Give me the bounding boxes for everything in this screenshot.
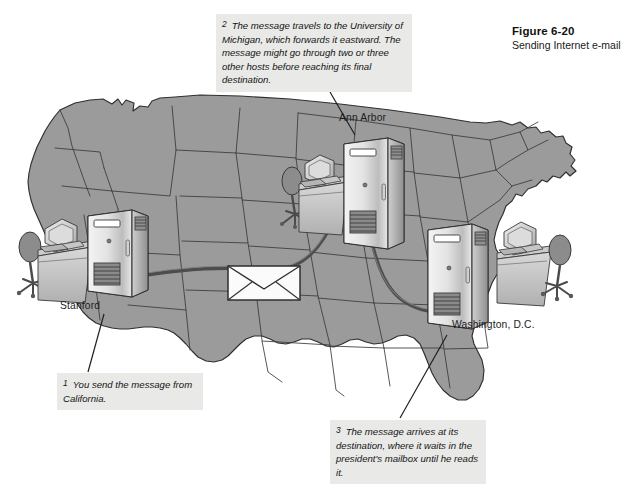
city-label-stanford: Stanford (60, 300, 100, 311)
figure-container: Figure 6-20 Sending Internet e-mail 2The… (0, 0, 631, 503)
figure-number: Figure 6-20 (512, 24, 631, 38)
figure-caption: Figure 6-20 Sending Internet e-mail (512, 24, 631, 52)
server-cabinet-icon (428, 224, 488, 329)
envelope-icon (228, 266, 300, 300)
callout-step-3-number: 3 (336, 425, 341, 435)
city-label-ann-arbor: Ann Arbor (339, 112, 386, 123)
callout-step-1-number: 1 (63, 378, 68, 388)
callout-step-3: 3The message arrives at its destination,… (330, 420, 486, 484)
callout-step-1: 1You send the message from California. (57, 373, 203, 410)
node-washington (428, 222, 573, 329)
callout-step-2-text: The message travels to the University of… (222, 20, 403, 85)
callout-step-2: 2The message travels to the University o… (216, 14, 412, 92)
desktop-computer-icon (499, 222, 543, 255)
callout-step-1-text: You send the message from California. (63, 379, 192, 404)
callout-step-2-number: 2 (222, 19, 227, 29)
city-label-washington-dc: Washington, D.C. (452, 319, 535, 330)
figure-caption-text: Sending Internet e-mail (512, 39, 631, 52)
server-cabinet-icon (344, 138, 404, 249)
server-cabinet-icon (88, 210, 148, 297)
callout-step-3-text: The message arrives at its destination, … (336, 426, 478, 478)
